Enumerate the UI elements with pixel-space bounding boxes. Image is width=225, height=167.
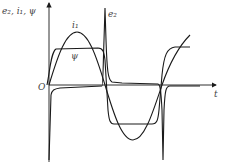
- curve-psi: [47, 47, 190, 124]
- curve-label-psi: ψ: [71, 51, 79, 61]
- x-axis-label: t: [214, 89, 218, 99]
- origin-label: O: [38, 82, 46, 92]
- curve-label-i1: i₁: [72, 20, 79, 30]
- y-axis-label: e₂, i₁, ψ: [2, 6, 37, 16]
- waveform-diagram: e₂, i₁, ψ t O i₁ ψ e₂: [0, 0, 225, 167]
- curve-e2: [49, 8, 200, 160]
- curve-label-e2: e₂: [108, 9, 117, 19]
